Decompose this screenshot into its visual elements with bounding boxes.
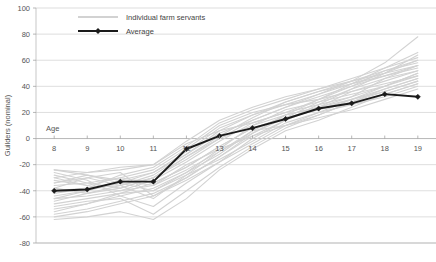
y-tick-label--80: -80 xyxy=(19,239,30,248)
y-tick-label--40: -40 xyxy=(19,187,30,196)
individual-line-11 xyxy=(54,65,418,190)
gridlines-group xyxy=(36,8,436,243)
individual-series-group xyxy=(54,37,418,220)
x-tick-label-11: 11 xyxy=(149,144,157,153)
y-tick-label-0: 0 xyxy=(26,134,30,143)
y-tick-label-100: 100 xyxy=(17,4,30,13)
x-tick-label-12: 12 xyxy=(182,144,190,153)
x-tick-label-15: 15 xyxy=(281,144,289,153)
legend-label-individual-farm-servants: Individual farm servants xyxy=(126,13,205,22)
y-tick-label-80: 80 xyxy=(22,30,30,39)
y-tick-label-20: 20 xyxy=(22,108,30,117)
x-tick-label-14: 14 xyxy=(248,144,256,153)
axis-titles: Guilders (nominal)Age xyxy=(3,94,59,156)
y-tick-label-40: 40 xyxy=(22,82,30,91)
y-tick-label-60: 60 xyxy=(22,56,30,65)
legend-label-average: Average xyxy=(126,27,154,36)
x-tick-label-9: 9 xyxy=(85,144,89,153)
x-tick-label-16: 16 xyxy=(314,144,322,153)
y-axis-title: Guilders (nominal) xyxy=(3,94,12,156)
y-axis-tick-labels: 100806040200-20-40-60-80 xyxy=(17,4,30,248)
x-tick-label-8: 8 xyxy=(52,144,56,153)
legend: Individual farm servantsAverage xyxy=(78,13,205,36)
average-marker-age-19 xyxy=(415,94,420,99)
y-tick-label--20: -20 xyxy=(19,160,30,169)
x-axis-title: Age xyxy=(46,124,59,133)
legend-marker-average xyxy=(95,28,101,34)
y-tick-label--60: -60 xyxy=(19,213,30,222)
x-tick-label-19: 19 xyxy=(414,144,422,153)
chart-container: 100806040200-20-40-60-80 891011121314151… xyxy=(0,0,436,262)
chart-svg: 100806040200-20-40-60-80 891011121314151… xyxy=(0,0,436,262)
x-tick-label-10: 10 xyxy=(116,144,124,153)
x-tick-label-18: 18 xyxy=(381,144,389,153)
x-tick-label-17: 17 xyxy=(348,144,356,153)
x-tick-label-13: 13 xyxy=(215,144,223,153)
